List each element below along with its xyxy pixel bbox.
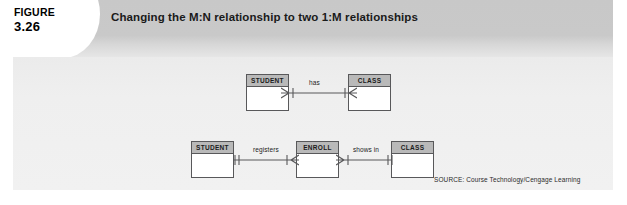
relationship-label-shows-in: shows in — [353, 146, 379, 153]
entity-attribute-area — [392, 154, 433, 177]
figure-container: Changing the M:N relationship to two 1:M… — [0, 0, 627, 205]
entity-header-label: CLASS — [392, 142, 433, 154]
relationship-label-has: has — [309, 79, 320, 86]
figure-header-banner: Changing the M:N relationship to two 1:M… — [62, 0, 613, 57]
figure-label: FIGURE 3.26 — [14, 6, 76, 33]
figure-number: 3.26 — [14, 20, 76, 33]
entity-student-bottom[interactable]: STUDENT — [191, 141, 234, 178]
entity-attribute-area — [192, 154, 233, 177]
entity-attribute-area — [297, 154, 338, 177]
connector-registers — [231, 150, 299, 170]
figure-label-word: FIGURE — [14, 6, 55, 18]
entity-header-label: STUDENT — [192, 142, 233, 154]
connector-shows-in — [336, 150, 396, 170]
source-credit: SOURCE: Course Technology/Cengage Learni… — [434, 176, 580, 183]
figure-title: Changing the M:N relationship to two 1:M… — [111, 11, 605, 23]
relationship-label-registers: registers — [253, 146, 279, 153]
connector-has — [281, 83, 357, 103]
entity-class-bottom[interactable]: CLASS — [391, 141, 434, 178]
entity-header-label: ENROLL — [297, 142, 338, 154]
entity-enroll-bottom[interactable]: ENROLL — [296, 141, 339, 178]
diagram-panel: STUDENT CLASS has STUDENT — [13, 57, 613, 190]
